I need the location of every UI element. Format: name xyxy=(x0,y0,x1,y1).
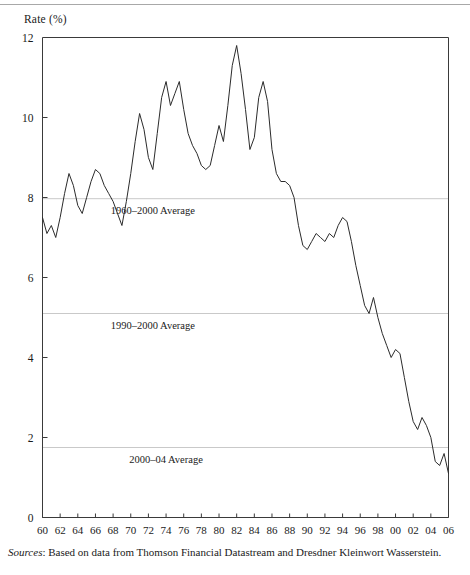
y-tick-label-0: 0 xyxy=(28,512,34,524)
y-tick-label-1: 2 xyxy=(28,432,34,444)
x-tick-label-14: 88 xyxy=(284,524,296,536)
x-tick-label-20: 00 xyxy=(390,524,402,536)
x-tick-label-10: 80 xyxy=(214,524,226,536)
x-tick-label-5: 70 xyxy=(125,524,137,536)
reference-line-label-1: 1990–2000 Average xyxy=(111,320,195,331)
x-tick-label-11: 82 xyxy=(231,524,242,536)
x-tick-label-19: 98 xyxy=(372,524,384,536)
x-tick-label-13: 86 xyxy=(266,524,278,536)
reference-line-label-0: 1960–2000 Average xyxy=(111,205,195,216)
x-tick-label-4: 68 xyxy=(108,524,120,536)
y-tick-label-3: 6 xyxy=(28,272,34,284)
source-note: Sources: Based on data from Thomson Fina… xyxy=(8,546,464,560)
x-tick-label-16: 92 xyxy=(319,524,330,536)
chart-svg: 0246810126062646668707274767880828486889… xyxy=(0,0,470,575)
reference-line-label-2: 2000–04 Average xyxy=(129,454,203,465)
y-tick-label-2: 4 xyxy=(28,352,34,364)
x-tick-label-1: 62 xyxy=(55,524,66,536)
x-tick-label-23: 06 xyxy=(443,524,455,536)
source-label: Sources xyxy=(8,546,42,558)
x-tick-label-12: 84 xyxy=(249,524,261,536)
x-tick-label-3: 66 xyxy=(90,524,102,536)
x-tick-label-21: 02 xyxy=(408,524,419,536)
reference-lines-group xyxy=(43,199,449,448)
y-tick-label-5: 10 xyxy=(22,112,34,124)
x-tick-label-2: 64 xyxy=(72,524,84,536)
annotations-group: 1960–2000 Average1990–2000 Average2000–0… xyxy=(111,205,203,465)
x-tick-label-7: 74 xyxy=(161,524,173,536)
line-chart: 0246810126062646668707274767880828486889… xyxy=(0,0,470,575)
y-tick-label-6: 12 xyxy=(22,32,34,44)
x-tick-label-6: 72 xyxy=(143,524,154,536)
series-line-0 xyxy=(43,46,449,474)
series-group xyxy=(43,46,449,474)
tick-labels-group: 0246810126062646668707274767880828486889… xyxy=(22,32,455,536)
x-tick-label-18: 96 xyxy=(355,524,367,536)
figure-page: Rate (%) 0246810126062646668707274767880… xyxy=(0,0,470,575)
x-tick-label-9: 78 xyxy=(196,524,208,536)
x-tick-label-22: 04 xyxy=(425,524,437,536)
source-text: Based on data from Thomson Financial Dat… xyxy=(48,546,441,558)
x-tick-label-8: 76 xyxy=(178,524,190,536)
x-tick-label-15: 90 xyxy=(302,524,314,536)
x-tick-label-17: 94 xyxy=(337,524,349,536)
x-tick-label-0: 60 xyxy=(37,524,49,536)
y-tick-label-4: 8 xyxy=(28,192,34,204)
